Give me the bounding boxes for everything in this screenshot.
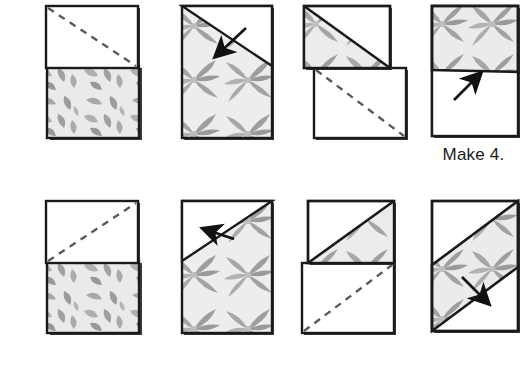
step-sew-and-flip (168, 0, 298, 160)
step-finished-unit (418, 0, 529, 160)
step-place-second-square (292, 0, 422, 160)
diagram-sheet: Make 4. (0, 0, 529, 390)
step-finished-unit (418, 195, 529, 355)
step-place-square-on-rectangle (34, 0, 164, 160)
step-place-square-on-rectangle (34, 195, 164, 355)
patterned-rectangle (47, 261, 139, 333)
step-place-second-square (292, 195, 422, 355)
make-count-label-top: Make 4. (418, 145, 529, 165)
step-sew-and-flip (168, 195, 298, 355)
patterned-rectangle (47, 66, 139, 138)
instruction-row-top: Make 4. (0, 0, 529, 195)
instruction-row-bottom: Make 4. (0, 195, 529, 390)
patterned-band (432, 6, 518, 72)
